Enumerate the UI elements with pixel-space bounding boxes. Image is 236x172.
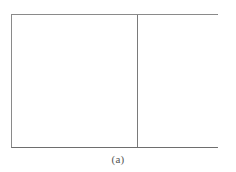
figure-left-panel: [12, 15, 137, 147]
figure-container: (a): [0, 0, 236, 172]
figure-caption: (a): [0, 153, 236, 166]
figure-right-panel: [138, 15, 218, 147]
figure-outline-box: [11, 14, 218, 148]
